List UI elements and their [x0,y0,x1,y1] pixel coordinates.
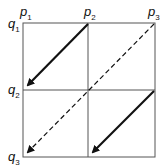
arrow-p3q2-to-p2q3 [93,91,154,152]
label-q2: q2 [8,83,20,100]
label-p1: p1 [20,5,32,22]
label-p2: p2 [84,5,96,22]
label-p3: p3 [148,5,160,22]
arrow-p2q1-to-p1q2 [28,24,88,85]
arrow-p3q1-to-p1q3-dashed [28,24,154,152]
label-q1: q1 [8,17,20,34]
label-q3: q3 [8,150,20,167]
grid-diagram [0,0,164,167]
